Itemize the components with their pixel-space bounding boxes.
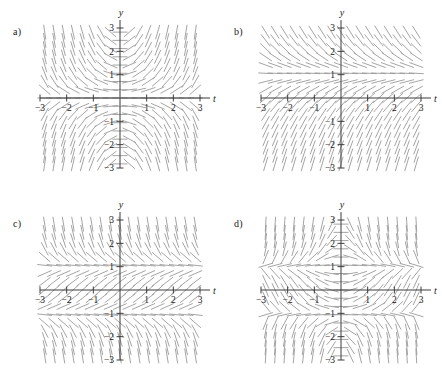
svg-text:3: 3 <box>419 103 424 113</box>
plot-area-b: −3−2−1123−3−2−1123ty <box>261 28 421 168</box>
svg-text:1: 1 <box>144 295 149 305</box>
svg-text:1: 1 <box>109 70 114 80</box>
svg-text:−1: −1 <box>88 103 98 113</box>
svg-text:2: 2 <box>109 47 114 57</box>
svg-text:2: 2 <box>171 295 176 305</box>
svg-text:−1: −1 <box>88 295 98 305</box>
panel-a: a) −3−2−1123−3−2−1123ty <box>0 0 221 192</box>
svg-text:−2: −2 <box>104 332 114 342</box>
svg-text:−2: −2 <box>62 103 72 113</box>
panel-label-c: c) <box>13 218 21 229</box>
svg-text:−3: −3 <box>256 103 266 113</box>
axes-and-ticks <box>261 212 431 360</box>
svg-text:−3: −3 <box>256 295 266 305</box>
svg-text:3: 3 <box>198 103 203 113</box>
svg-text:2: 2 <box>392 295 397 305</box>
svg-text:2: 2 <box>330 47 335 57</box>
plot-area-d: −3−2−1123−3−2−1123ty <box>261 220 421 360</box>
svg-text:−3: −3 <box>104 163 114 173</box>
svg-text:−2: −2 <box>325 332 335 342</box>
svg-text:1: 1 <box>365 103 370 113</box>
svg-text:2: 2 <box>171 103 176 113</box>
svg-text:t: t <box>213 93 216 104</box>
svg-text:−2: −2 <box>325 140 335 150</box>
plot-area-a: −3−2−1123−3−2−1123ty <box>40 28 200 168</box>
panel-b: b) −3−2−1123−3−2−1123ty <box>221 0 442 192</box>
svg-text:y: y <box>339 199 345 210</box>
svg-text:y: y <box>118 7 124 18</box>
axis-names: ty <box>339 7 437 104</box>
svg-text:y: y <box>118 199 124 210</box>
svg-text:−3: −3 <box>325 163 335 173</box>
svg-text:1: 1 <box>330 70 335 80</box>
svg-text:−2: −2 <box>62 295 72 305</box>
svg-text:3: 3 <box>330 215 335 225</box>
axes-and-ticks <box>40 20 210 168</box>
svg-text:−2: −2 <box>283 295 293 305</box>
svg-text:−1: −1 <box>325 309 335 319</box>
svg-text:−1: −1 <box>309 103 319 113</box>
svg-text:−1: −1 <box>104 309 114 319</box>
svg-text:1: 1 <box>109 262 114 272</box>
panel-label-d: d) <box>234 218 243 229</box>
svg-text:−1: −1 <box>309 295 319 305</box>
svg-text:1: 1 <box>330 262 335 272</box>
svg-text:3: 3 <box>109 215 114 225</box>
svg-text:−2: −2 <box>283 103 293 113</box>
svg-text:t: t <box>213 285 216 296</box>
panel-label-b: b) <box>234 26 243 37</box>
svg-text:−3: −3 <box>35 295 45 305</box>
svg-text:3: 3 <box>330 23 335 33</box>
svg-text:3: 3 <box>419 295 424 305</box>
svg-text:t: t <box>434 93 437 104</box>
plot-area-c: −3−2−1123−3−2−1123ty <box>40 220 200 360</box>
slope-field-svg-c: −3−2−1123−3−2−1123ty <box>40 220 200 360</box>
svg-text:3: 3 <box>109 23 114 33</box>
svg-text:2: 2 <box>330 239 335 249</box>
svg-text:−1: −1 <box>325 117 335 127</box>
slope-field-svg-b: −3−2−1123−3−2−1123ty <box>261 28 421 168</box>
svg-text:y: y <box>339 7 345 18</box>
svg-text:t: t <box>434 285 437 296</box>
slope-field-grid: a) −3−2−1123−3−2−1123ty b) −3−2−1123−3−2… <box>0 0 442 383</box>
svg-text:−3: −3 <box>325 355 335 365</box>
svg-text:−3: −3 <box>104 355 114 365</box>
svg-text:2: 2 <box>109 239 114 249</box>
svg-text:−2: −2 <box>104 140 114 150</box>
svg-text:1: 1 <box>144 103 149 113</box>
svg-text:−1: −1 <box>104 117 114 127</box>
panel-label-a: a) <box>13 26 21 37</box>
svg-text:3: 3 <box>198 295 203 305</box>
svg-text:2: 2 <box>392 103 397 113</box>
svg-text:−3: −3 <box>35 103 45 113</box>
slope-field-svg-a: −3−2−1123−3−2−1123ty <box>40 28 200 168</box>
axis-names: ty <box>118 199 216 296</box>
slope-field-svg-d: −3−2−1123−3−2−1123ty <box>261 220 421 360</box>
svg-text:1: 1 <box>365 295 370 305</box>
panel-d: d) −3−2−1123−3−2−1123ty <box>221 192 442 383</box>
panel-c: c) −3−2−1123−3−2−1123ty <box>0 192 221 383</box>
